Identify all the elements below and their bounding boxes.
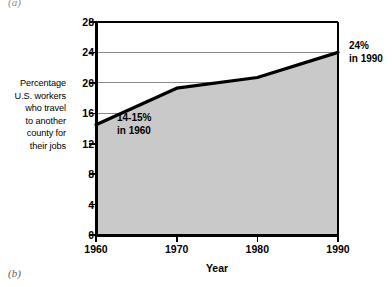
y-axis-title-line-6: their jobs [2, 140, 66, 153]
y-axis-title-line-1: Percentage [2, 77, 66, 90]
y-tick-label-8: 8 [68, 169, 94, 180]
x-tick-label-1960: 1960 [73, 244, 119, 255]
figure-part-label-b: (b) [8, 268, 21, 279]
y-tick-label-12: 12 [68, 139, 94, 150]
annotation-start-value: 14-15% in 1960 [117, 112, 151, 137]
y-tick-label-16: 16 [68, 108, 94, 119]
y-axis-title: Percentage U.S. workers who travel to an… [2, 77, 66, 153]
y-tick-label-24: 24 [68, 47, 94, 58]
area-chart: Percentage U.S. workers who travel to an… [0, 0, 392, 287]
x-tick-label-1970: 1970 [154, 244, 200, 255]
annotation-start-line-2: in 1960 [117, 125, 151, 138]
annotation-end-line-2: in 1990 [349, 53, 383, 66]
annotation-start-line-1: 14-15% [117, 112, 151, 125]
x-tick-label-1980: 1980 [234, 244, 280, 255]
y-tick-label-20: 20 [68, 78, 94, 89]
x-tick-label-1990: 1990 [315, 244, 361, 255]
y-axis-title-line-4: to another [2, 115, 66, 128]
y-tick-label-4: 4 [68, 200, 94, 211]
y-axis-title-line-3: who travel [2, 102, 66, 115]
y-tick-label-0: 0 [68, 230, 94, 241]
y-axis-title-line-2: U.S. workers [2, 90, 66, 103]
annotation-end-line-1: 24% [349, 40, 383, 53]
x-axis-title: Year [96, 262, 338, 274]
annotation-end-value: 24% in 1990 [349, 40, 383, 65]
y-tick-label-28: 28 [68, 17, 94, 28]
y-axis-title-line-5: county for [2, 127, 66, 140]
